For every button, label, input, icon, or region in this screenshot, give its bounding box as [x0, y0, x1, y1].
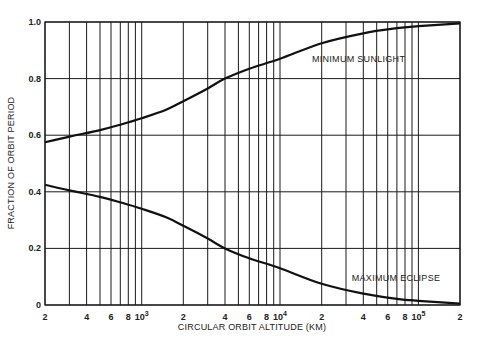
orbit-fraction-chart: 2468103246810424681052 00.20.40.60.81.0 … [0, 0, 479, 344]
y-axis-label: FRACTION OF ORBIT PERIOD [6, 96, 16, 229]
x-tick-label: 2 [42, 312, 47, 322]
y-tick-label: 1.0 [28, 17, 41, 27]
x-tick-label: 4 [361, 312, 366, 322]
plot-frame [45, 22, 460, 305]
y-tick-label: 0.2 [28, 243, 41, 253]
x-tick-labels: 2468103246810424681052 [42, 310, 462, 322]
x-tick-label: 8 [264, 312, 269, 322]
annotation-minimum-sunlight: MINIMUM SUNLIGHT [312, 54, 405, 64]
curve-minimum-sunlight [45, 23, 460, 142]
vertical-gridlines [45, 22, 460, 305]
x-tick-label: 6 [385, 312, 390, 322]
x-tick-label: 4 [84, 312, 89, 322]
y-tick-label: 0 [36, 300, 41, 310]
x-axis-label: CIRCULAR ORBIT ALTITUDE (KM) [178, 322, 326, 332]
x-tick-label: 104 [273, 310, 287, 322]
x-tick-label: 2 [319, 312, 324, 322]
curves [45, 23, 460, 303]
horizontal-gridlines [45, 22, 460, 305]
curve-maximum-eclipse [45, 185, 460, 304]
annotation-maximum-eclipse: MAXIMUM ECLIPSE [352, 273, 441, 283]
x-tick-label: 6 [247, 312, 252, 322]
x-tick-label: 6 [108, 312, 113, 322]
x-tick-label: 2 [457, 312, 462, 322]
x-tick-label: 105 [411, 310, 425, 322]
x-tick-label: 8 [402, 312, 407, 322]
x-tick-label: 103 [135, 310, 149, 322]
y-tick-label: 0.8 [28, 74, 41, 84]
x-tick-label: 8 [126, 312, 131, 322]
x-tick-label: 2 [181, 312, 186, 322]
y-tick-label: 0.4 [28, 187, 41, 197]
y-tick-label: 0.6 [28, 130, 41, 140]
x-tick-label: 4 [222, 312, 227, 322]
y-tick-labels: 00.20.40.60.81.0 [28, 17, 41, 310]
